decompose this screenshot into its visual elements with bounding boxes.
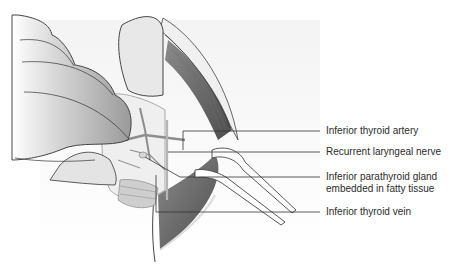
- label-inferior-parathyroid-gland: Inferior parathyroid gland: [326, 171, 437, 183]
- label-inferior-thyroid-artery: Inferior thyroid artery: [326, 125, 418, 137]
- label-inferior-thyroid-vein: Inferior thyroid vein: [326, 206, 411, 218]
- label-recurrent-laryngeal-nerve: Recurrent laryngeal nerve: [326, 146, 441, 158]
- label-embedded-in-fatty-tissue: embedded in fatty tissue: [326, 183, 434, 195]
